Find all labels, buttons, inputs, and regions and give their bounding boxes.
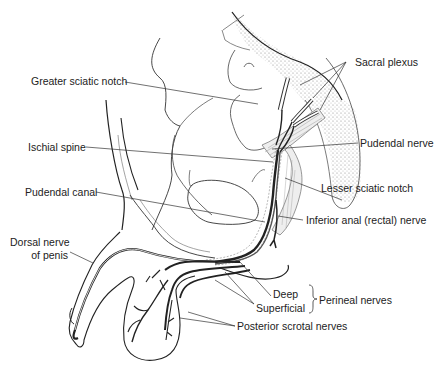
label-sacral-plexus: Sacral plexus bbox=[355, 56, 418, 68]
label-dorsal-nerve-line1: Dorsal nerve bbox=[10, 236, 68, 248]
label-deep: Deep bbox=[273, 288, 298, 300]
pudendal-nerve bbox=[205, 148, 282, 265]
label-pudendal-canal: Pudendal canal bbox=[25, 186, 97, 198]
label-lesser-sciatic-notch: Lesser sciatic notch bbox=[321, 182, 413, 194]
label-greater-sciatic-notch: Greater sciatic notch bbox=[31, 75, 127, 87]
pudendal-nerve-diagram: Greater sciatic notch Ischial spine Pude… bbox=[0, 0, 440, 370]
label-superficial: Superficial bbox=[256, 302, 305, 314]
label-perineal-nerves: Perineal nerves bbox=[319, 294, 392, 306]
label-posterior-scrotal-nerves: Posterior scrotal nerves bbox=[237, 320, 347, 332]
label-pudendal-nerve: Pudendal nerve bbox=[360, 137, 434, 149]
perineal-brace bbox=[309, 285, 317, 313]
label-dorsal-nerve-line2: of penis bbox=[10, 249, 68, 261]
pelvic-bone-outline bbox=[106, 38, 268, 258]
label-inferior-anal-nerve: Inferior anal (rectal) nerve bbox=[306, 214, 426, 226]
dorsal-nerve-of-penis bbox=[69, 232, 215, 347]
label-ischial-spine: Ischial spine bbox=[28, 141, 86, 153]
